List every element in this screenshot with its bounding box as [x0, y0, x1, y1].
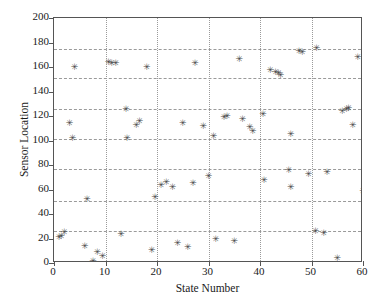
data-point [135, 117, 144, 126]
data-point [248, 127, 257, 136]
x-axis-label: State Number [53, 282, 362, 295]
data-point [104, 58, 113, 67]
data-point [333, 254, 342, 261]
data-markers [54, 18, 361, 261]
data-point [259, 110, 268, 119]
data-point [199, 122, 208, 131]
data-point [286, 183, 295, 192]
x-axis-tick-label: 40 [244, 266, 274, 277]
y-axis-tick [49, 67, 54, 68]
y-axis-tick [49, 141, 54, 142]
data-point [353, 53, 361, 62]
data-point [82, 195, 91, 204]
data-point [271, 68, 280, 77]
x-axis-tick-label: 50 [296, 266, 326, 277]
x-axis-tick-label: 0 [38, 266, 68, 277]
data-point [183, 243, 192, 252]
data-point [150, 193, 159, 202]
data-point [338, 107, 347, 116]
data-point [57, 232, 66, 241]
plot-area [53, 17, 362, 262]
y-axis-tick [49, 190, 54, 191]
data-point [111, 59, 120, 68]
data-point [235, 55, 244, 64]
data-point [191, 59, 200, 68]
y-axis-tick [49, 92, 54, 93]
data-point [238, 115, 247, 124]
data-point [142, 63, 151, 72]
y-axis-label: Sensor Location [16, 17, 32, 262]
data-point [211, 235, 220, 244]
data-point [312, 44, 321, 53]
data-point [147, 246, 156, 255]
data-point [132, 121, 141, 130]
data-point [286, 130, 295, 139]
scatter-chart-figure: 0204060801001201401601802000102030405060… [0, 0, 384, 301]
data-point [122, 105, 131, 114]
data-point [245, 123, 254, 132]
data-point [89, 257, 98, 261]
data-point [348, 121, 357, 130]
data-point [178, 119, 187, 128]
data-point [55, 233, 64, 242]
data-point [173, 239, 182, 248]
data-point [80, 242, 89, 251]
data-point [219, 113, 228, 122]
data-point [162, 178, 171, 187]
y-axis-tick [49, 165, 54, 166]
data-point [123, 134, 132, 143]
data-point [322, 168, 331, 177]
data-point [68, 134, 77, 143]
y-axis-tick [49, 239, 54, 240]
data-point [189, 179, 198, 188]
data-point [319, 229, 328, 238]
data-point [266, 66, 275, 75]
x-axis-tick-label: 60 [347, 266, 377, 277]
data-point [168, 183, 177, 192]
data-point [344, 104, 353, 113]
y-axis-tick [49, 43, 54, 44]
x-axis-tick-label: 30 [193, 266, 223, 277]
data-point [60, 228, 69, 237]
data-point [298, 48, 307, 57]
data-point [223, 112, 232, 121]
data-point [359, 187, 362, 196]
x-axis-tick-label: 10 [90, 266, 120, 277]
data-point [116, 230, 125, 239]
data-point [274, 69, 283, 78]
data-point [209, 132, 218, 141]
y-axis-tick [49, 214, 54, 215]
data-point [311, 227, 320, 236]
data-point [260, 176, 269, 185]
data-point [342, 105, 351, 114]
data-point [98, 252, 107, 261]
x-axis-tick-label: 20 [141, 266, 171, 277]
data-point [230, 237, 239, 246]
data-point [65, 119, 74, 128]
data-point [304, 170, 313, 179]
data-point [93, 248, 102, 257]
data-point [157, 181, 166, 190]
data-point [204, 172, 213, 181]
data-point [295, 47, 304, 56]
data-point [107, 59, 116, 68]
y-axis-tick [49, 116, 54, 117]
data-point [284, 166, 293, 175]
data-point [70, 63, 79, 72]
data-point [276, 71, 285, 80]
y-axis-tick [49, 18, 54, 19]
